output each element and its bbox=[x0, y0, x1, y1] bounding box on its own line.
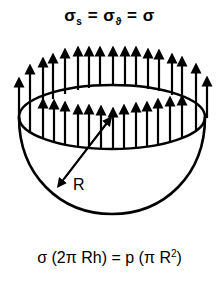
radius-label: R bbox=[73, 176, 85, 193]
force-balance-equation: σ (2π Rh) = p (π R2) bbox=[0, 248, 219, 267]
front-stress-arrows bbox=[43, 100, 182, 148]
balance-close: ) bbox=[177, 249, 182, 266]
radius-arrow bbox=[60, 118, 111, 184]
balance-lhs: σ (2π Rh) = p (π R bbox=[37, 249, 171, 266]
hemisphere-diagram: R bbox=[0, 0, 219, 290]
